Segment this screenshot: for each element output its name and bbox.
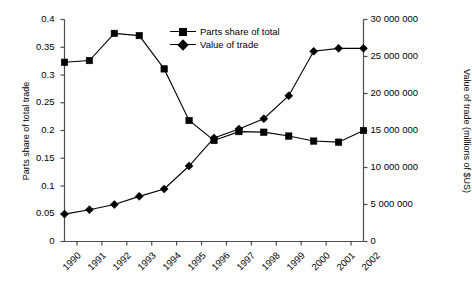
y-axis-right-tick-label: 0 bbox=[371, 236, 441, 246]
y-axis-left-tick-label: 0.2 bbox=[19, 125, 55, 135]
y-axis-left-tick-label: 0 bbox=[19, 236, 55, 246]
y-axis-left-tick-label: 0.25 bbox=[19, 97, 55, 107]
series-value-of-trade bbox=[61, 44, 368, 218]
diamond-marker-icon bbox=[170, 39, 196, 50]
y-axis-right-tick-label: 5 000 000 bbox=[371, 199, 441, 209]
y-axis-right-tick-label: 15 000 000 bbox=[371, 125, 441, 135]
y-axis-right-tick-label: 25 000 000 bbox=[371, 51, 441, 61]
y-axis-left-tick-label: 0.1 bbox=[19, 181, 55, 191]
y-axis-left-tick-label: 0.3 bbox=[19, 70, 55, 80]
legend-item-parts-share: Parts share of total bbox=[170, 25, 280, 38]
legend-label: Value of trade bbox=[200, 38, 258, 51]
chart-legend: Parts share of total Value of trade bbox=[170, 25, 280, 51]
y-axis-left-tick-label: 0.15 bbox=[19, 153, 55, 163]
y-axis-right-tick-label: 30 000 000 bbox=[371, 14, 441, 24]
y-axis-left-tick-label: 0.05 bbox=[19, 208, 55, 218]
y-axis-right-title: Value of trade (millions of $US) bbox=[462, 16, 472, 246]
y-axis-left-tick-label: 0.4 bbox=[19, 14, 55, 24]
y-axis-right-tick-label: 20 000 000 bbox=[371, 88, 441, 98]
y-axis-left-tick-label: 0.35 bbox=[19, 42, 55, 52]
y-axis-right-tick-label: 10 000 000 bbox=[371, 162, 441, 172]
square-marker-icon bbox=[170, 26, 196, 37]
legend-label: Parts share of total bbox=[200, 25, 280, 38]
legend-item-value-of-trade: Value of trade bbox=[170, 38, 280, 51]
